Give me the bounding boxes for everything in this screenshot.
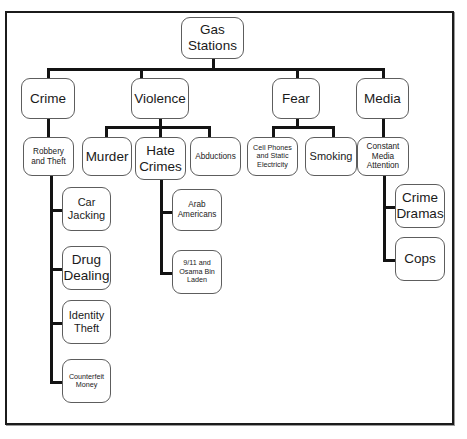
node-gas-stations[interactable]: Gas Stations <box>181 17 244 59</box>
node-crime-dramas[interactable]: Crime Dramas <box>395 184 445 228</box>
node-smoking[interactable]: Smoking <box>305 137 357 176</box>
edge-robbery-spine <box>50 176 53 384</box>
edge-crime-robbery <box>47 118 50 138</box>
node-murder[interactable]: Murder <box>82 137 132 176</box>
node-fear[interactable]: Fear <box>272 78 320 119</box>
node-cell-phones-static-electricity[interactable]: Cell Phones and Static Electricity <box>247 137 298 176</box>
edge-hatecrimes-spine <box>160 176 163 275</box>
node-violence[interactable]: Violence <box>131 78 189 119</box>
edge-fear-bus <box>272 126 335 129</box>
node-crime[interactable]: Crime <box>21 78 75 119</box>
node-911-osama-bin-laden[interactable]: 9/11 and Osama Bin Laden <box>172 250 222 294</box>
node-abductions[interactable]: Abductions <box>190 137 241 176</box>
node-cops[interactable]: Cops <box>395 237 445 281</box>
edge-violence-bus <box>105 126 211 129</box>
edge-cma-spine <box>383 176 386 262</box>
node-car-jacking[interactable]: Car Jacking <box>62 187 111 231</box>
concept-map-canvas: Gas Stations Crime Violence Fear Media R… <box>0 0 467 439</box>
node-robbery-and-theft[interactable]: Robbery and Theft <box>23 137 74 176</box>
node-hate-crimes[interactable]: Hate Crimes <box>135 137 186 180</box>
edge-media-constant <box>382 118 385 138</box>
node-media[interactable]: Media <box>356 78 409 119</box>
edge-root-bus <box>47 68 385 71</box>
node-counterfeit-money[interactable]: Counterfeit Money <box>62 359 111 403</box>
node-drug-dealing[interactable]: Drug Dealing <box>62 246 111 290</box>
node-arab-americans[interactable]: Arab Americans <box>172 189 222 231</box>
node-constant-media-attention[interactable]: Constant Media Attention <box>357 137 409 176</box>
node-identity-theft[interactable]: Identity Theft <box>62 300 111 344</box>
